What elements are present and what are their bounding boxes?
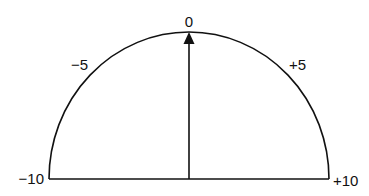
scale-label-plus5: +5 [289, 56, 306, 73]
scale-label-zero: 0 [185, 13, 193, 30]
arrow-up-icon [184, 32, 195, 44]
scale-label-minus10: −10 [19, 170, 44, 187]
semicircle-gauge-diagram: 0 −5 +5 −10 +10 [0, 0, 369, 196]
scale-label-plus10: +10 [333, 172, 358, 189]
scale-label-minus5: −5 [71, 56, 88, 73]
